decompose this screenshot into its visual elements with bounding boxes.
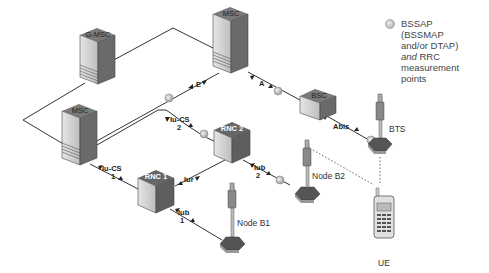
interface-iur-label: Iur bbox=[184, 176, 194, 184]
legend: BSSAP (BSSMAP and/or DTAP) and RRC measu… bbox=[401, 18, 489, 84]
interface-iucs1: Iu-CS 1 bbox=[102, 165, 122, 181]
rnc2-label: RNC 2 bbox=[216, 124, 248, 133]
legend-line-6: points bbox=[401, 73, 489, 84]
bsc-label: BSC bbox=[304, 91, 334, 100]
interface-e-label: E bbox=[196, 81, 201, 89]
legend-line-3: and/or DTAP) bbox=[401, 40, 489, 51]
interface-iucs2: Iu-CS 2 bbox=[170, 116, 190, 132]
msc-top-label: MSC bbox=[216, 9, 246, 18]
interface-iub1: Iub 1 bbox=[178, 209, 189, 225]
ue-label: UE bbox=[378, 258, 390, 268]
interface-iub2: Iub 2 bbox=[254, 164, 265, 180]
ue-phone-icon bbox=[374, 188, 394, 238]
interface-iucs1-num: 1 bbox=[102, 173, 122, 181]
legend-line-2: (BSSMAP bbox=[401, 29, 489, 40]
legend-line-4: and RRC bbox=[401, 51, 489, 62]
interface-iub2-num: 2 bbox=[254, 172, 265, 180]
interface-a-label: A bbox=[259, 80, 264, 88]
legend-line-1: BSSAP bbox=[401, 18, 489, 29]
rnc1-label: RNC 1 bbox=[140, 172, 172, 181]
legend-line-5: measurement bbox=[401, 62, 489, 73]
legend-rrc: RRC bbox=[417, 51, 440, 62]
legend-and: and bbox=[401, 51, 417, 62]
msc-left-label: MSC bbox=[65, 106, 95, 115]
measurement-points bbox=[165, 87, 375, 184]
nodeb1-label: Node B1 bbox=[237, 218, 270, 228]
nodeb2-label: Node B2 bbox=[312, 171, 345, 181]
interface-abis-label: Abis bbox=[333, 123, 349, 131]
measurement-point-icon bbox=[385, 19, 395, 29]
gmsc-label: G-MSC bbox=[82, 30, 114, 39]
interface-iub1-num: 1 bbox=[178, 217, 189, 225]
interface-iucs2-num: 2 bbox=[170, 124, 190, 132]
bts-label: BTS bbox=[389, 124, 406, 134]
